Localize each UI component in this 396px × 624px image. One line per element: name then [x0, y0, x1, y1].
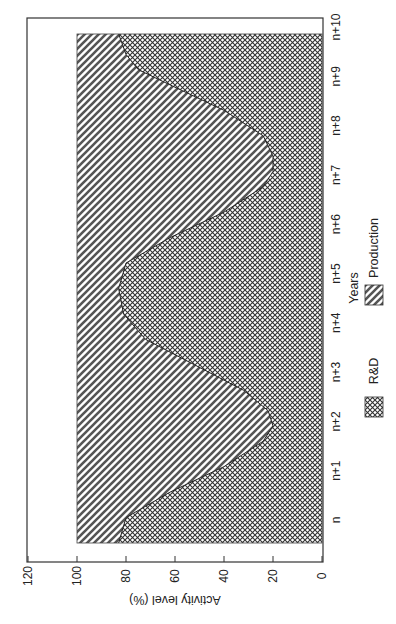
x-tick-label: n+4 — [329, 312, 343, 333]
chart: 020406080100120 nn+1n+2n+3n+4n+5n+6n+7n+… — [0, 0, 396, 624]
production-swatch-icon — [365, 285, 383, 305]
legend-label-production: Production — [367, 218, 381, 278]
x-tick-label: n+5 — [329, 263, 343, 284]
y-tick-label: 20 — [266, 569, 280, 583]
legend-item-rd: R&D — [365, 358, 383, 417]
x-axis: nn+1n+2n+3n+4n+5n+6n+7n+8n+9n+10 — [329, 13, 343, 523]
x-tick-label: n+6 — [329, 214, 343, 235]
rd-swatch-icon — [365, 397, 383, 417]
y-tick-label: 100 — [70, 566, 84, 586]
y-tick-label: 40 — [217, 569, 231, 583]
x-tick-label: n+7 — [329, 164, 343, 185]
y-tick-label: 60 — [168, 569, 182, 583]
legend-item-production: Production — [365, 218, 383, 305]
y-tick-label: 120 — [21, 566, 35, 586]
legend-label-rd: R&D — [367, 358, 381, 384]
x-tick-label: n+1 — [329, 460, 343, 481]
x-tick-label: n+3 — [329, 362, 343, 383]
x-axis-title: Years — [347, 272, 361, 304]
plot-area — [77, 34, 322, 543]
x-tick-label: n — [329, 517, 343, 524]
x-tick-label: n+9 — [329, 66, 343, 87]
y-axis: 020406080100120 — [21, 556, 329, 586]
y-axis-title: Activity level (%) — [129, 593, 221, 607]
x-tick-label: n+10 — [329, 13, 343, 40]
x-tick-label: n+2 — [329, 411, 343, 432]
legend: R&D Production — [365, 218, 383, 417]
y-tick-label: 0 — [315, 572, 329, 579]
x-tick-label: n+8 — [329, 115, 343, 136]
y-tick-label: 80 — [119, 569, 133, 583]
